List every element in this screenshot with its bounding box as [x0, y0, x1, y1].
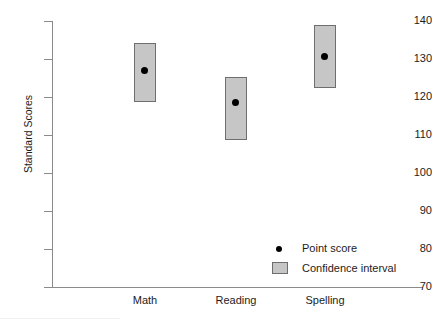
legend-item-point-score: Point score — [272, 239, 424, 259]
y-tick-label-70: 70 — [390, 281, 432, 292]
y-tick-label-130: 130 — [390, 53, 432, 64]
legend-item-confidence-interval: Confidence interval — [272, 259, 424, 279]
y-tick-70 — [44, 287, 52, 288]
y-axis-line — [52, 21, 53, 287]
legend-dot-icon — [276, 246, 282, 252]
point-score-marker-spelling — [321, 53, 328, 60]
y-tick-label-100: 100 — [390, 167, 432, 178]
legend-label-confidence-interval: Confidence interval — [302, 262, 396, 275]
x-axis-line — [52, 287, 423, 288]
y-tick-130 — [44, 59, 52, 60]
scan-artifact — [0, 318, 120, 319]
y-tick-label-90: 90 — [390, 205, 432, 216]
y-tick-90 — [44, 211, 52, 212]
y-axis-title: Standard Scores — [22, 54, 34, 214]
y-tick-120 — [44, 97, 52, 98]
y-tick-label-120: 120 — [390, 91, 432, 102]
y-tick-80 — [44, 249, 52, 250]
x-tick-label-spelling: Spelling — [280, 294, 370, 306]
x-tick-label-math: Math — [100, 294, 190, 306]
y-tick-label-140: 140 — [390, 15, 432, 26]
confidence-interval-bar-reading — [225, 77, 247, 140]
legend-box-icon — [272, 262, 288, 274]
legend-label-point-score: Point score — [302, 242, 357, 255]
y-tick-label-110: 110 — [390, 129, 432, 140]
legend: Point score Confidence interval — [272, 239, 424, 279]
y-tick-110 — [44, 135, 52, 136]
x-tick-label-reading: Reading — [191, 294, 281, 306]
chart-figure: Standard Scores 140 130 120 110 100 90 8… — [0, 0, 432, 325]
y-tick-140 — [44, 21, 52, 22]
y-tick-100 — [44, 173, 52, 174]
point-score-marker-math — [141, 67, 148, 74]
point-score-marker-reading — [232, 99, 239, 106]
